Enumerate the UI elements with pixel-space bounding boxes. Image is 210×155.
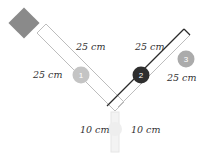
ball-1: 1	[73, 67, 90, 84]
label-right-lower: 25 cm	[167, 73, 196, 83]
ball-2: 2	[133, 67, 150, 84]
track-diagram: 1 2 3 25 cm 25 cm 25 cm 25 cm 10 cm 10 c…	[0, 0, 210, 155]
ball-1-label: 1	[79, 71, 84, 80]
label-left-upper: 25 cm	[76, 42, 105, 52]
source-block	[8, 7, 39, 38]
label-stem-left: 10 cm	[80, 125, 109, 135]
ball-2-label: 2	[139, 71, 144, 80]
label-right-upper: 25 cm	[135, 42, 164, 52]
ball-3-label: 3	[184, 55, 189, 64]
ball-3: 3	[178, 51, 195, 68]
label-stem-right: 10 cm	[131, 125, 160, 135]
stem-ball	[108, 122, 122, 136]
label-left-lower: 25 cm	[33, 70, 62, 80]
